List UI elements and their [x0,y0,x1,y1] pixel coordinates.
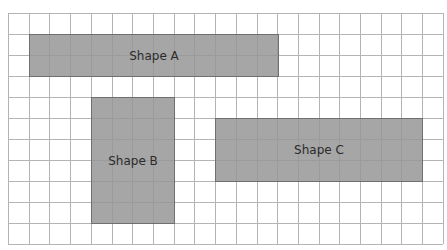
shape-a: Shape A [29,34,279,77]
shape-a-label: Shape A [129,49,179,63]
shape-b: Shape B [91,97,175,224]
shape-b-label: Shape B [108,154,158,168]
shape-c: Shape C [215,118,423,182]
shape-c-label: Shape C [294,143,344,157]
